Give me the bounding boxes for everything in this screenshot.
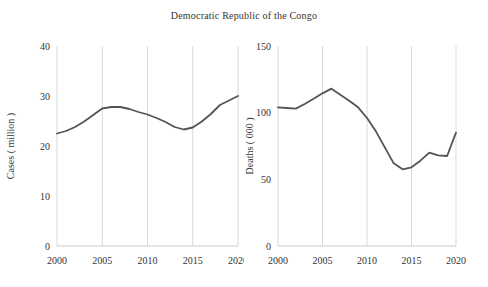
x-tick-label-2015: 2015: [183, 255, 203, 266]
x-tick-label-2005: 2005: [92, 255, 112, 266]
y-axis-title: Cases ( million ): [5, 113, 17, 179]
y-tick-label-0: 0: [45, 241, 50, 252]
y-tick-label-20: 20: [40, 141, 50, 152]
y-tick-label-40: 40: [40, 41, 50, 52]
y-tick-label-100: 100: [256, 107, 271, 118]
figure: Democratic Republic of the Congo 2000200…: [0, 0, 488, 287]
x-tick-label-2005: 2005: [313, 255, 333, 266]
y-tick-label-150: 150: [256, 41, 271, 52]
x-tick-label-2010: 2010: [357, 255, 377, 266]
x-tick-label-2000: 2000: [47, 255, 67, 266]
y-tick-label-0: 0: [266, 241, 271, 252]
x-tick-label-2000: 2000: [268, 255, 288, 266]
chart-title: Democratic Republic of the Congo: [0, 10, 488, 21]
y-axis-title: Deaths ( 000 ): [244, 118, 256, 175]
x-tick-label-2010: 2010: [138, 255, 158, 266]
y-tick-label-30: 30: [40, 91, 50, 102]
x-tick-label-2020: 2020: [228, 255, 244, 266]
x-tick-label-2015: 2015: [402, 255, 422, 266]
deaths-line-chart: 20002005201020152020050100150Deaths ( 00…: [244, 30, 488, 287]
y-tick-label-10: 10: [40, 191, 50, 202]
y-tick-label-50: 50: [261, 174, 271, 185]
x-tick-label-2020: 2020: [446, 255, 466, 266]
cases-line-chart: 20002005201020152020010203040Cases ( mil…: [0, 30, 244, 287]
